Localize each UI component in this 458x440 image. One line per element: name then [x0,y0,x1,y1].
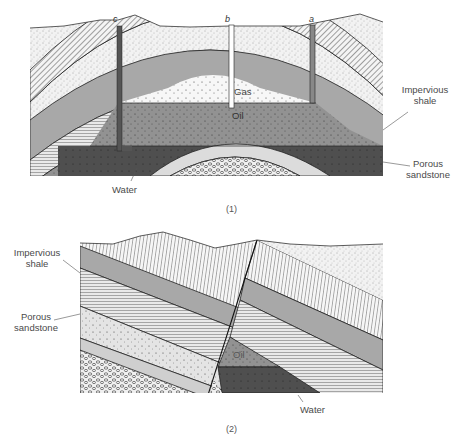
well-a-label: a [309,14,314,25]
oil-zone-label: Oil [232,110,244,121]
well-c-label: c [113,14,118,25]
impervious-shale-label-2-line2: shale [8,258,66,269]
figure-1-caption: (1) [226,204,237,214]
diagram-canvas [0,0,458,440]
figure-2-caption: (2) [226,424,237,434]
impervious-shale-label-1-line1: Impervious [395,84,455,95]
water-label-2: Water [300,404,325,415]
callout-line-water-2 [298,395,303,402]
impervious-shale-label-1-line2: shale [395,95,455,106]
impervious-shale-label-1: Impervious shale [395,84,455,106]
porous-sandstone-label-1-line1: Porous [400,158,456,169]
porous-sandstone-label-2: Porous sandstone [12,311,60,333]
callout-line-impervious-shale-1 [383,112,408,130]
water-label-1: Water [112,184,137,195]
porous-sandstone-label-2-line2: sandstone [12,322,60,333]
impervious-shale-label-2-line1: Impervious [8,247,66,258]
porous-sandstone-label-2-line1: Porous [12,311,60,322]
porous-sandstone-label-1-line2: sandstone [400,169,456,180]
well-c [117,26,122,151]
gas-zone-label: Gas [234,86,251,97]
well-a [310,25,315,103]
oil-zone-label-2: Oil [233,349,245,360]
well-b-label: b [225,14,230,25]
porous-sandstone-label-1: Porous sandstone [400,158,456,180]
impervious-shale-label-2: Impervious shale [8,247,66,269]
